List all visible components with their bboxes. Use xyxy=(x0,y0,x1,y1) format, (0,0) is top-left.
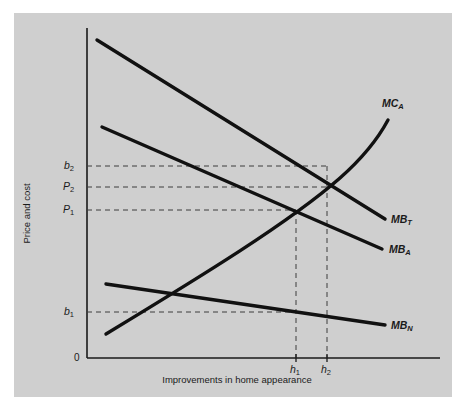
curve-label-mb-n: MBN xyxy=(391,320,413,331)
figure-root: Price and cost Improvements in home appe… xyxy=(0,0,465,410)
x-tick-label-h1: h1 xyxy=(290,364,300,375)
y-axis-title: Price and cost xyxy=(21,166,32,262)
curve-mb-a xyxy=(102,127,382,249)
curve-label-mc-a: MCA xyxy=(382,98,404,109)
y-tick-label-b1: b1 xyxy=(64,306,74,317)
origin-label: 0 xyxy=(74,352,80,363)
x-tick-label-h2: h2 xyxy=(321,364,331,375)
curve-label-mb-a: MBA xyxy=(389,244,411,255)
y-tick-label-p1: P1 xyxy=(63,204,74,215)
curve-mc-a xyxy=(106,120,388,334)
curve-mb-n xyxy=(106,284,385,325)
y-tick-label-p2: P2 xyxy=(63,181,74,192)
x-axis-title: Improvements in home appearance xyxy=(87,374,387,385)
curve-label-mb-t: MBT xyxy=(391,214,412,225)
y-tick-label-b2: b2 xyxy=(64,160,74,171)
curve-mb-t xyxy=(97,40,385,219)
